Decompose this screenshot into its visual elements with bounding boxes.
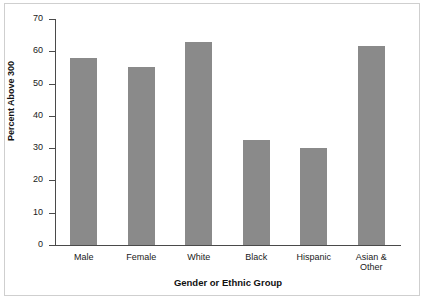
bar bbox=[358, 46, 385, 245]
y-tick-60 bbox=[49, 51, 55, 52]
x-tick-label: Female bbox=[113, 252, 171, 262]
y-tick-label-0: 0 bbox=[38, 240, 43, 249]
x-axis-line bbox=[55, 245, 401, 246]
y-tick-50 bbox=[49, 84, 55, 85]
x-axis-title: Gender or Ethnic Group bbox=[55, 277, 401, 288]
y-tick-label-70: 70 bbox=[33, 14, 43, 23]
y-tick-40 bbox=[49, 116, 55, 117]
y-axis-title: Percent Above 300 bbox=[6, 46, 16, 156]
bar bbox=[185, 42, 212, 245]
y-axis-line bbox=[55, 19, 56, 246]
x-tick-label: Male bbox=[55, 252, 113, 262]
bar bbox=[243, 140, 270, 245]
x-tick-label: Asian & Other bbox=[343, 252, 401, 272]
bar bbox=[300, 148, 327, 245]
y-tick-0 bbox=[49, 245, 55, 246]
bar-chart-figure: 010203040506070 MaleFemaleWhiteBlackHisp… bbox=[0, 0, 425, 300]
y-tick-label-60: 60 bbox=[33, 46, 43, 55]
y-tick-label-40: 40 bbox=[33, 111, 43, 120]
x-tick-label: Black bbox=[228, 252, 286, 262]
y-tick-70 bbox=[49, 19, 55, 20]
y-tick-label-20: 20 bbox=[33, 175, 43, 184]
y-tick-label-50: 50 bbox=[33, 79, 43, 88]
y-tick-10 bbox=[49, 213, 55, 214]
x-tick-label: White bbox=[170, 252, 228, 262]
y-tick-label-30: 30 bbox=[33, 143, 43, 152]
x-tick-label: Hispanic bbox=[285, 252, 343, 262]
y-tick-label-10: 10 bbox=[33, 208, 43, 217]
bar bbox=[70, 58, 97, 245]
bar bbox=[128, 67, 155, 245]
y-tick-20 bbox=[49, 180, 55, 181]
y-tick-30 bbox=[49, 148, 55, 149]
